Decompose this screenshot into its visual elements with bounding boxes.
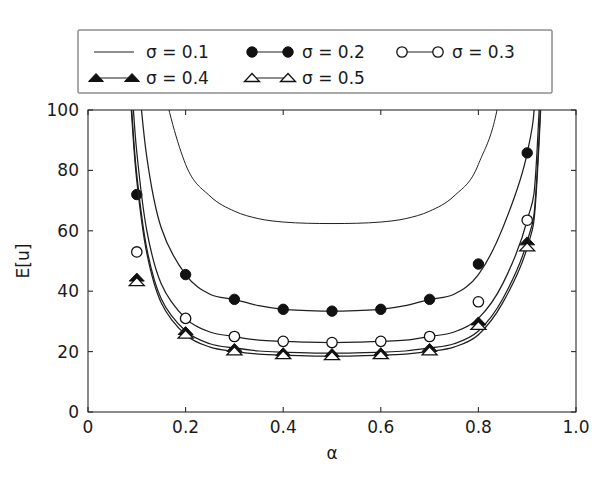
y-tick-label: 100: [47, 100, 79, 120]
y-tick-label: 20: [57, 342, 79, 362]
legend-label: σ = 0.4: [146, 68, 209, 88]
data-point: [376, 336, 386, 346]
data-point: [180, 269, 190, 279]
data-point: [376, 304, 386, 314]
data-point: [180, 313, 190, 323]
x-tick-label: 0.6: [367, 417, 394, 437]
legend-label: σ = 0.5: [302, 68, 365, 88]
data-point: [473, 259, 483, 269]
x-tick-label: 0: [83, 417, 94, 437]
x-tick-label: 0.2: [172, 417, 199, 437]
data-point: [278, 304, 288, 314]
data-point: [522, 148, 532, 158]
data-point: [327, 306, 337, 316]
x-axis-title: α: [326, 443, 337, 463]
data-point: [473, 297, 483, 307]
y-tick-label: 0: [68, 402, 79, 422]
plot-frame: [88, 110, 576, 412]
y-axis-title: E[u]: [13, 244, 33, 279]
data-point: [522, 215, 532, 225]
chart-figure: σ = 0.1σ = 0.2σ = 0.3σ = 0.4σ = 0.5 00.2…: [0, 0, 603, 479]
data-point: [424, 294, 434, 304]
legend-marker-icon: [247, 47, 257, 57]
x-tick-label: 0.8: [465, 417, 492, 437]
data-point: [132, 247, 142, 257]
legend-marker-icon: [433, 47, 443, 57]
series-markers: [132, 148, 533, 317]
x-tick-label: 1.0: [562, 417, 589, 437]
y-tick-label: 80: [57, 160, 79, 180]
data-point: [229, 331, 239, 341]
data-point: [229, 294, 239, 304]
chart-legend: σ = 0.1σ = 0.2σ = 0.3σ = 0.4σ = 0.5: [78, 30, 552, 93]
data-point: [278, 336, 288, 346]
legend-marker-icon: [397, 47, 407, 57]
legend-marker-icon: [283, 47, 293, 57]
data-point: [327, 337, 337, 347]
x-tick-label: 0.4: [270, 417, 297, 437]
legend-label: σ = 0.2: [302, 42, 365, 62]
chart-axes: 00.20.40.60.81.0020406080100: [47, 100, 590, 437]
chart-canvas: σ = 0.1σ = 0.2σ = 0.3σ = 0.4σ = 0.5 00.2…: [0, 0, 603, 479]
data-point: [424, 331, 434, 341]
legend-label: σ = 0.1: [146, 42, 209, 62]
legend-label: σ = 0.3: [452, 42, 515, 62]
y-tick-label: 40: [57, 281, 79, 301]
y-tick-label: 60: [57, 221, 79, 241]
